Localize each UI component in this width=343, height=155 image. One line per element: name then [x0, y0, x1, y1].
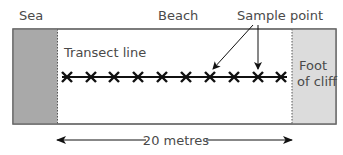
sea-area [14, 30, 58, 124]
foot-of-cliff-label-line2: of cliff [297, 74, 338, 89]
beach-label: Beach [158, 8, 198, 23]
beach-transect-diagram: Sea Beach Sample point Foot of cliff Tra… [0, 0, 343, 155]
transect-line-label: Transect line [63, 45, 146, 60]
sample-point-label: Sample point [237, 8, 323, 23]
distance-label: 20 metres [143, 133, 209, 148]
foot-of-cliff-label-line1: Foot [299, 58, 327, 73]
sea-label: Sea [19, 8, 43, 23]
